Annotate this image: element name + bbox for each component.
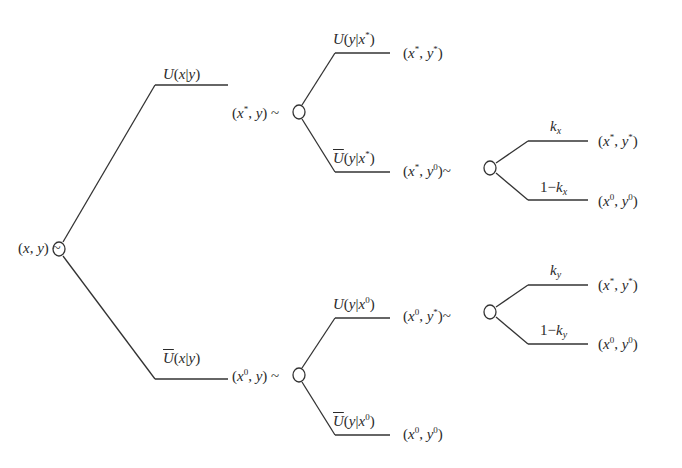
node-label-x0-y: (x0, y) ~ <box>232 368 279 384</box>
outcome-xstar-ystar-top: (x*, y*) <box>403 45 443 61</box>
edge-label-kx: kx <box>550 119 561 136</box>
edge-label-Ubar-y-given-xstar: U(y|x*) <box>333 150 375 166</box>
node-label-x0-ystar: (x0, y*)~ <box>403 308 451 324</box>
edge-root-lower <box>63 256 155 379</box>
chance-node-upper-right <box>484 161 496 175</box>
edge-label-U-y-given-xstar: U(y|x*) <box>333 31 375 47</box>
outcome-x0-y0-ky: (x0, y0) <box>598 336 638 352</box>
edge-label-Ubar-y-given-x0: U(y|x0) <box>333 413 375 429</box>
chance-node-lower-right <box>484 305 496 319</box>
edge-label-ky: ky <box>550 263 561 280</box>
chance-node-lower <box>293 368 305 382</box>
decision-tree-lines <box>0 0 682 468</box>
edge-label-1-minus-kx: 1−kx <box>540 180 567 197</box>
node-label-xstar-y0: (x*, y0)~ <box>403 163 451 179</box>
edge-label-U-y-given-x0: U(y|x0) <box>333 296 375 312</box>
chance-node-upper <box>293 105 305 119</box>
edge-label-Ubar-x-given-y: U(x|y) <box>163 351 200 366</box>
edge-root-upper <box>63 85 155 242</box>
edge-label-1-minus-ky: 1−ky <box>540 323 567 340</box>
root-label: (x, y) ~ <box>18 241 61 256</box>
outcome-x0-y0-bottom: (x0, y0) <box>403 426 443 442</box>
outcome-xstar-ystar-kx: (x*, y*) <box>598 133 638 149</box>
edge-label-U-x-given-y: U(x|y) <box>163 67 200 82</box>
outcome-xstar-ystar-ky: (x*, y*) <box>598 277 638 293</box>
outcome-x0-y0-kx: (x0, y0) <box>598 193 638 209</box>
node-label-xstar-y: (x*, y) ~ <box>232 105 279 121</box>
